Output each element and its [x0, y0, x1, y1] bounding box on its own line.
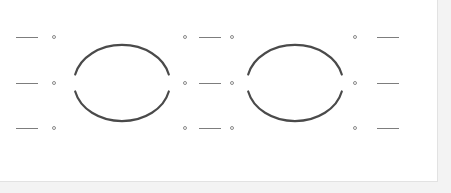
right-ring-top-arc[interactable]: [248, 45, 342, 75]
diagram-svg: [0, 0, 438, 182]
screenshot-root: [0, 0, 451, 193]
right-ring-bottom-arc[interactable]: [248, 92, 342, 122]
document-page-panel: [0, 0, 438, 182]
drawing-canvas[interactable]: [0, 0, 438, 182]
left-ring-bottom-arc[interactable]: [75, 92, 169, 122]
left-ring-top-arc[interactable]: [75, 45, 169, 75]
